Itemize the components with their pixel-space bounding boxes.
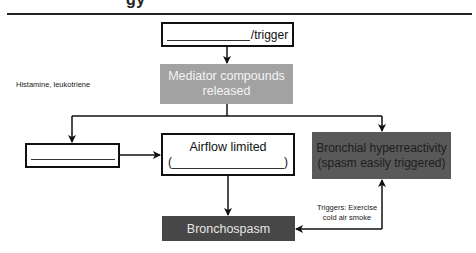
bronchial-line2: (spasm easily triggered) [317,156,445,171]
airflow-title: Airflow limited [189,140,266,154]
airflow-box: Airflow limited ( ) [161,133,295,176]
paren-close: ) [284,155,288,169]
bronchial-line1: Bronchial hyperreactivity [316,141,447,156]
airflow-blank [172,158,284,169]
left-blank [31,147,115,160]
triggers-line1: Triggers: Exercise [308,203,386,213]
mediator-line2: released [203,84,251,99]
left-blank-box [25,143,120,168]
trigger-blank [167,28,250,41]
bronchospasm-label: Bronchospasm [187,222,270,236]
bronchial-hyperreactivity-box: Bronchial hyperreactivity (spasm easily … [312,132,451,179]
mediator-box: Mediator compounds released [160,64,293,104]
triggers-label: Triggers: Exercise cold air smoke [308,203,386,223]
bronchospasm-box: Bronchospasm [162,216,295,241]
trigger-suffix: /trigger [251,28,288,42]
airflow-paren-group: ( ) [168,155,288,169]
histamine-label: Histamine, leukotriene [16,80,90,90]
triggers-line2: cold air smoke [308,213,386,223]
mediator-line1: Mediator compounds [168,69,285,84]
trigger-box: /trigger [161,22,294,47]
